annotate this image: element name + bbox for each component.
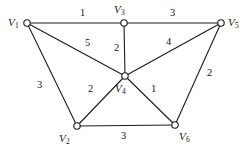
node-label-text: V — [8, 16, 15, 28]
edge-v2-v6 — [77, 125, 175, 126]
node-v2 — [74, 123, 80, 129]
edge-weight-v3-v4: 2 — [114, 43, 119, 54]
node-v5 — [218, 20, 224, 26]
edge-v5-v6 — [175, 23, 221, 125]
node-label-subscript: 2 — [66, 137, 70, 146]
node-label-subscript: 5 — [235, 21, 239, 30]
edge-v1-v2 — [27, 23, 77, 126]
edge-weight-v1-v3: 1 — [80, 8, 85, 19]
node-label-subscript: 3 — [121, 8, 125, 17]
edge-v1-v4 — [27, 23, 125, 76]
node-label-text: V — [228, 16, 235, 28]
node-v1 — [24, 20, 30, 26]
node-label-subscript: 4 — [122, 87, 126, 96]
edge-v4-v6 — [125, 76, 175, 125]
node-v3 — [121, 20, 127, 26]
node-label-v6: V6 — [179, 131, 190, 143]
node-label-subscript: 6 — [186, 135, 190, 144]
node-label-text: V — [59, 132, 66, 144]
node-label-v1: V1 — [8, 17, 19, 29]
node-v4 — [122, 73, 128, 79]
node-label-subscript: 1 — [15, 21, 19, 30]
edge-weight-v5-v6: 2 — [207, 68, 212, 79]
node-label-v2: V2 — [59, 133, 70, 145]
node-label-v5: V5 — [228, 17, 239, 29]
node-label-v3: V3 — [114, 4, 125, 16]
node-v6 — [172, 122, 178, 128]
edge-weight-v1-v4: 5 — [85, 38, 90, 49]
node-label-text: V — [115, 82, 122, 94]
edge-weight-v4-v5: 4 — [166, 37, 171, 48]
edge-v3-v4 — [124, 23, 125, 76]
node-label-v4: V4 — [115, 83, 126, 95]
edge-weight-v1-v2: 3 — [37, 80, 42, 91]
node-label-text: V — [114, 3, 121, 15]
edge-weight-v2-v6: 3 — [121, 131, 126, 142]
node-label-text: V — [179, 130, 186, 142]
edge-weight-v3-v5: 3 — [170, 8, 175, 19]
edge-weight-v2-v4: 2 — [88, 84, 93, 95]
edge-weight-v4-v6: 1 — [151, 84, 156, 95]
graph-figure: 1352432123V1V2V3V4V5V6 — [0, 0, 249, 151]
